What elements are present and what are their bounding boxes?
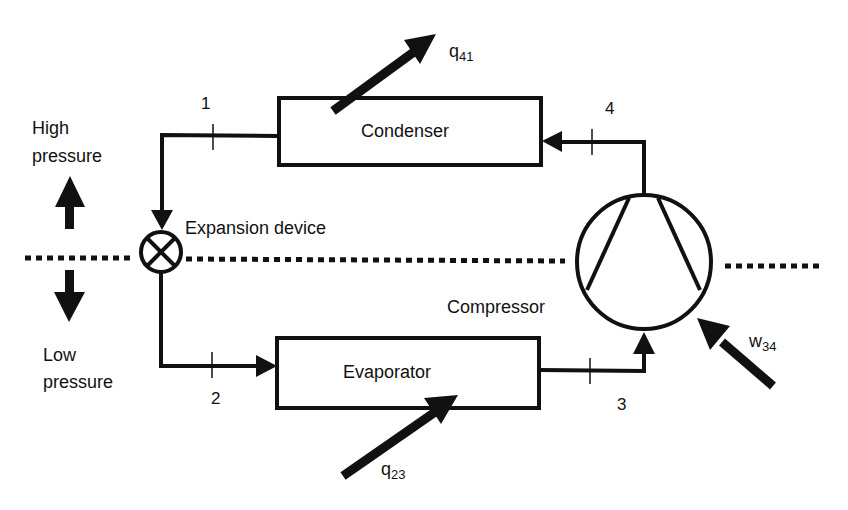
q23-label: q23 <box>381 458 405 482</box>
high-pressure-label-line2: pressure <box>32 145 102 167</box>
state-point-4: 4 <box>605 98 614 120</box>
expansion-valve-icon <box>141 232 181 272</box>
high-pressure-up-arrow-icon <box>55 176 85 229</box>
evaporator-label: Evaporator <box>343 361 431 383</box>
low-pressure-down-arrow-icon <box>54 270 85 322</box>
expansion-device-label: Expansion device <box>185 217 326 239</box>
pipe-condenser-to-expansion <box>151 124 279 230</box>
pipe-compressor-to-condenser <box>542 129 644 195</box>
condenser-label: Condenser <box>361 120 449 142</box>
pipe-expansion-to-evaporator <box>161 272 277 378</box>
refrigeration-cycle-diagram <box>0 0 848 510</box>
pipe-evaporator-to-compressor <box>539 332 655 384</box>
q41-label: q41 <box>449 40 473 64</box>
state-point-3: 3 <box>617 394 626 416</box>
state-point-1: 1 <box>201 93 210 115</box>
compressor-label: Compressor <box>447 296 545 318</box>
w34-label: w34 <box>749 330 776 354</box>
low-pressure-label-line1: Low <box>43 344 76 366</box>
state-point-2: 2 <box>211 388 220 410</box>
low-pressure-label-line2: pressure <box>43 371 113 393</box>
high-pressure-label-line1: High <box>32 117 69 139</box>
compressor-icon <box>577 195 711 329</box>
